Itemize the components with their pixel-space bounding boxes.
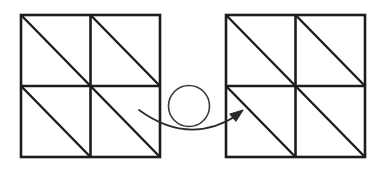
figure-canvas [0, 0, 380, 176]
right-cell-bottom-left-diagonal [227, 87, 295, 156]
left-cell-top-left-diagonal [22, 16, 90, 85]
right-cell-bottom-right-diagonal [297, 87, 365, 156]
diagram-svg [0, 0, 380, 176]
left-square [21, 15, 160, 157]
left-cell-bottom-right-diagonal [92, 87, 160, 156]
right-cell-top-right-diagonal [297, 16, 365, 85]
left-cell-top-right-diagonal [92, 16, 160, 85]
left-cell-bottom-left-diagonal [22, 87, 90, 156]
right-cell-top-left-diagonal [227, 16, 295, 85]
circle-marker-icon [169, 86, 210, 127]
right-square [226, 15, 365, 157]
